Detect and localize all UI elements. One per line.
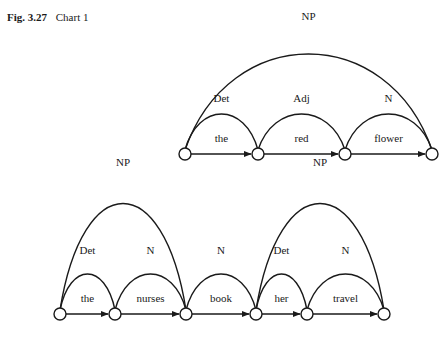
chart-node [109,308,121,320]
chart-diagram: theredflowerDetAdjNNP thenursesbookhertr… [0,0,443,338]
constituent-label: NP [301,10,315,22]
word-label: flower [374,132,403,144]
constituent-label: Det [80,244,96,256]
word-label: red [294,132,309,144]
chart-node [378,308,390,320]
constituent-label: Adj [293,92,310,104]
constituent-label: N [385,92,393,104]
constituent-label: Det [274,244,290,256]
chart-1: theredflowerDetAdjNNP [179,10,438,160]
constituent-label: NP [313,156,327,168]
chart-node [252,148,264,160]
chart-node [301,308,313,320]
word-label: nurses [136,292,164,304]
constituent-arc-np [60,204,186,311]
chart-node [54,308,66,320]
constituent-label: N [342,244,350,256]
word-label: the [81,292,95,304]
chart-node [426,148,438,160]
constituent-label: N [217,244,225,256]
chart-node [180,308,192,320]
word-label: travel [333,292,358,304]
chart-node [179,148,191,160]
chart-node [250,308,262,320]
chart-node [339,148,351,160]
word-label: the [215,132,229,144]
word-label: book [210,292,233,304]
constituent-label: NP [116,156,130,168]
word-label: her [274,292,288,304]
chart-2: thenursesbookhertravelDetNNDetNNPNP [54,156,390,320]
constituent-label: N [147,244,155,256]
constituent-label: Det [214,92,230,104]
